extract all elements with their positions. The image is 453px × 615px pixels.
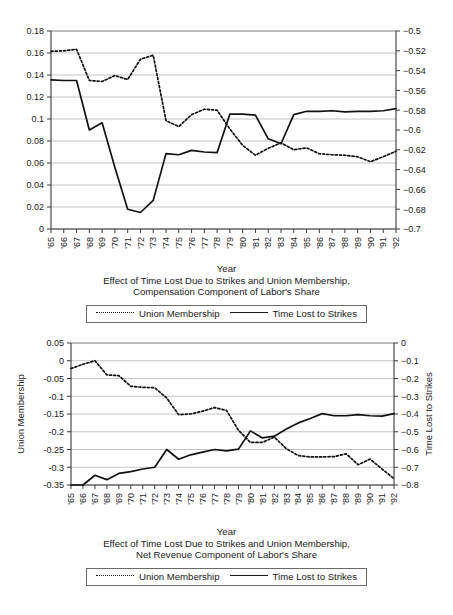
x-axis-tick-label: '89 bbox=[353, 237, 363, 249]
x-axis-tick-label: '71 bbox=[123, 237, 133, 249]
compensation-plot-svg: 00.020.040.060.080.10.120.140.160.18−0.7… bbox=[0, 0, 453, 262]
x-axis-tick-label: '76 bbox=[187, 237, 197, 249]
caption-net-revenue: Year Effect of Time Lost Due to Strikes … bbox=[0, 526, 453, 561]
legend-item-time-lost-top: Time Lost to Strikes bbox=[230, 308, 357, 319]
x-axis-tick-label: '67 bbox=[90, 493, 100, 505]
right-axis-tick-label: −0.6 bbox=[403, 125, 421, 135]
legend-net-revenue: Union Membership Time Lost to Strikes bbox=[86, 568, 367, 586]
x-axis-tick-label: '79 bbox=[234, 493, 244, 505]
left-axis-tick-label: 0.18 bbox=[26, 26, 44, 36]
solid-line-swatch-icon bbox=[230, 309, 268, 317]
x-axis-tick-label: '91 bbox=[377, 493, 387, 505]
x-axis-tick-label: '66 bbox=[59, 237, 69, 249]
legend-net-revenue-wrap: Union Membership Time Lost to Strikes bbox=[0, 568, 453, 586]
x-axis-tick-label: '65 bbox=[66, 493, 76, 505]
x-axis-tick-label: '75 bbox=[186, 493, 196, 505]
xaxis-title-bottom: Year bbox=[0, 526, 453, 538]
xaxis-title-top: Year bbox=[0, 263, 453, 275]
left-axis-tick-label: 0.1 bbox=[31, 114, 44, 124]
legend-compensation-wrap: Union Membership Time Lost to Strikes bbox=[0, 305, 453, 323]
x-axis-tick-label: '82 bbox=[263, 237, 273, 249]
right-axis-tick-label: −0.54 bbox=[403, 66, 426, 76]
x-axis-tick-label: '72 bbox=[136, 237, 146, 249]
left-axis-tick-label: 0.06 bbox=[26, 158, 44, 168]
left-axis-tick-label: -0.25 bbox=[43, 445, 64, 455]
x-axis-tick-label: '73 bbox=[148, 237, 158, 249]
left-axis-tick-label: 0.16 bbox=[26, 48, 44, 58]
x-axis-tick-label: '84 bbox=[293, 493, 303, 505]
left-axis-tick-label: 0 bbox=[59, 356, 64, 366]
left-axis-tick-label: -0.2 bbox=[48, 427, 64, 437]
solid-line-swatch-icon bbox=[230, 572, 268, 580]
right-axis-tick-label: −0.5 bbox=[401, 427, 419, 437]
legend-item-union-membership-top: Union Membership bbox=[96, 308, 220, 319]
left-axis-tick-label: -0.35 bbox=[43, 480, 64, 490]
right-axis-tick-label: −0.6 bbox=[401, 445, 419, 455]
x-axis-tick-label: '81 bbox=[251, 237, 261, 249]
left-axis-title: Union Membership bbox=[15, 374, 26, 454]
left-axis-tick-label: -0.15 bbox=[43, 409, 64, 419]
right-axis-tick-label: −0.3 bbox=[401, 392, 419, 402]
x-axis-tick-label: '86 bbox=[315, 237, 325, 249]
chart-net-revenue: -0.35-0.3-0.25-0.2-0.15-0.1-0.0500.05−0.… bbox=[0, 325, 453, 615]
x-axis-tick-label: '68 bbox=[85, 237, 95, 249]
legend-label-union-membership-bottom: Union Membership bbox=[139, 571, 220, 582]
left-axis-tick-label: 0.14 bbox=[26, 70, 44, 80]
dotted-line-swatch-icon bbox=[96, 309, 134, 317]
dotted-line-swatch-icon bbox=[96, 572, 134, 580]
left-axis-tick-label: 0.12 bbox=[26, 92, 44, 102]
plot-background bbox=[51, 31, 396, 229]
right-axis-tick-label: −0.1 bbox=[401, 356, 419, 366]
right-axis-tick-label: −0.64 bbox=[403, 165, 426, 175]
x-axis-tick-label: '90 bbox=[366, 237, 376, 249]
figure-page: 00.020.040.060.080.10.120.140.160.18−0.7… bbox=[0, 0, 453, 615]
legend-compensation: Union Membership Time Lost to Strikes bbox=[86, 305, 367, 323]
x-axis-tick-label: '81 bbox=[258, 493, 268, 505]
x-axis-tick-label: '73 bbox=[162, 493, 172, 505]
x-axis-tick-label: '88 bbox=[340, 237, 350, 249]
right-axis-title: Time Lost to Strikes bbox=[423, 372, 434, 456]
right-axis-tick-label: −0.66 bbox=[403, 185, 426, 195]
x-axis-tick-label: '92 bbox=[391, 237, 401, 249]
caption-line-1-bottom: Effect of Time Lost Due to Strikes and U… bbox=[0, 538, 453, 550]
caption-compensation: Year Effect of Time Lost Due to Strikes … bbox=[0, 263, 453, 298]
x-axis-tick-label: '80 bbox=[246, 493, 256, 505]
x-axis-tick-label: '89 bbox=[353, 493, 363, 505]
caption-line-1-top: Effect of Time Lost Due to Strikes and U… bbox=[0, 275, 453, 287]
x-axis-tick-label: '70 bbox=[110, 237, 120, 249]
x-axis-tick-label: '88 bbox=[341, 493, 351, 505]
left-axis-tick-label: 0 bbox=[39, 224, 44, 234]
right-axis-tick-label: −0.5 bbox=[403, 26, 421, 36]
right-axis-tick-label: −0.7 bbox=[401, 463, 419, 473]
plot-area-compensation: 00.020.040.060.080.10.120.140.160.18−0.7… bbox=[0, 0, 453, 262]
right-axis-tick-label: −0.68 bbox=[403, 205, 426, 215]
x-axis-tick-label: '91 bbox=[378, 237, 388, 249]
x-axis-tick-label: '83 bbox=[276, 237, 286, 249]
x-axis-tick-label: '72 bbox=[150, 493, 160, 505]
net-revenue-plot-svg: -0.35-0.3-0.25-0.2-0.15-0.1-0.0500.05−0.… bbox=[0, 325, 453, 525]
legend-label-time-lost-bottom: Time Lost to Strikes bbox=[273, 571, 357, 582]
left-axis-tick-label: 0.05 bbox=[46, 338, 64, 348]
x-axis-tick-label: '71 bbox=[138, 493, 148, 505]
right-axis-tick-label: −0.7 bbox=[403, 224, 421, 234]
right-axis-tick-label: −0.62 bbox=[403, 145, 426, 155]
right-axis-tick-label: −0.2 bbox=[401, 374, 419, 384]
x-axis-tick-label: '86 bbox=[317, 493, 327, 505]
left-axis-tick-label: -0.05 bbox=[43, 374, 64, 384]
x-axis-tick-label: '78 bbox=[212, 237, 222, 249]
x-axis-tick-label: '85 bbox=[302, 237, 312, 249]
plot-area-net-revenue: -0.35-0.3-0.25-0.2-0.15-0.1-0.0500.05−0.… bbox=[0, 325, 453, 525]
right-axis-tick-label: −0.56 bbox=[403, 86, 426, 96]
x-axis-tick-label: '77 bbox=[210, 493, 220, 505]
x-axis-tick-label: '74 bbox=[161, 237, 171, 249]
right-axis-tick-label: −0.58 bbox=[403, 106, 426, 116]
x-axis-tick-label: '75 bbox=[174, 237, 184, 249]
right-axis-tick-label: −0.8 bbox=[401, 480, 419, 490]
x-axis-tick-label: '66 bbox=[78, 493, 88, 505]
x-axis-tick-label: '69 bbox=[114, 493, 124, 505]
x-axis-tick-label: '92 bbox=[389, 493, 399, 505]
x-axis-tick-label: '70 bbox=[126, 493, 136, 505]
x-axis-tick-label: '87 bbox=[327, 237, 337, 249]
x-axis-tick-label: '87 bbox=[329, 493, 339, 505]
x-axis-tick-label: '83 bbox=[282, 493, 292, 505]
